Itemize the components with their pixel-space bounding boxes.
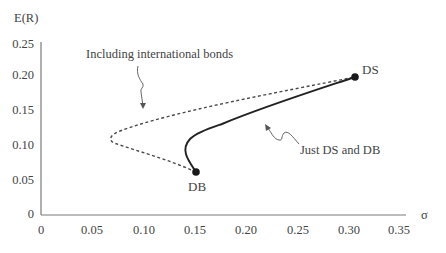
- x-tick-label: 0.10: [133, 224, 155, 237]
- arrowhead-just-icon: [265, 124, 271, 131]
- plot-area: [0, 0, 446, 253]
- x-tick-label: 0.25: [287, 224, 309, 237]
- y-tick-label: 0: [0, 208, 34, 221]
- y-axis-label: E(R): [14, 12, 38, 25]
- y-tick-label: 0.10: [0, 139, 34, 152]
- annotation-international-bonds: Including international bonds: [86, 48, 233, 61]
- x-tick-label: 0.05: [81, 224, 103, 237]
- annotation-arrow-intl: [137, 66, 143, 106]
- solid-curve-ds-db: [185, 77, 355, 172]
- annotation-just-ds-db: Just DS and DB: [300, 144, 380, 157]
- dashed-curve-international-bonds: [111, 77, 355, 172]
- x-tick-label: 0: [38, 224, 44, 237]
- point-ds-label: DS: [362, 63, 379, 76]
- x-tick-label: 0.20: [235, 224, 257, 237]
- x-axis-label: σ: [421, 209, 428, 222]
- x-tick-label: 0.30: [338, 224, 360, 237]
- point-db-label: DB: [188, 180, 206, 193]
- y-tick-label: 0.25: [0, 38, 34, 51]
- x-tick-label: 0.35: [388, 224, 410, 237]
- annotation-arrow-just: [268, 128, 299, 144]
- arrowhead-intl-icon: [140, 103, 146, 109]
- efficient-frontier-chart: E(R) σ 0.25 0.20 0.15 0.10 0.05 0 0 0.05…: [0, 0, 446, 253]
- y-tick-label: 0.20: [0, 69, 34, 82]
- x-tick-label: 0.15: [184, 224, 206, 237]
- y-tick-label: 0.15: [0, 104, 34, 117]
- point-ds-marker: [351, 73, 359, 81]
- point-db-marker: [192, 168, 200, 176]
- y-tick-label: 0.05: [0, 174, 34, 187]
